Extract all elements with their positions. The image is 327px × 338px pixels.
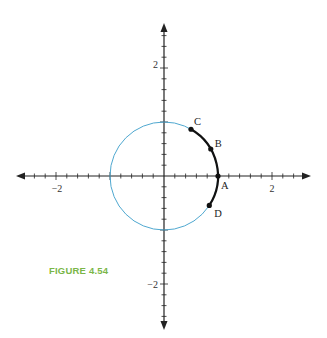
- y-tick-label-neg2: −2: [147, 279, 158, 290]
- point-c: [188, 127, 193, 132]
- point-label-c: C: [194, 116, 201, 127]
- y-tick-label-2: 2: [153, 59, 158, 70]
- point-b: [208, 146, 213, 151]
- point-label-b: B: [215, 138, 222, 149]
- point-label-d: D: [214, 208, 222, 219]
- x-axis-right-arrow-icon: [302, 173, 311, 180]
- y-axis-up-arrow-icon: [161, 23, 168, 32]
- point-d: [207, 203, 212, 208]
- x-tick-label-2: 2: [270, 183, 275, 194]
- figure-caption: FIGURE 4.54: [49, 265, 108, 276]
- y-axis-down-arrow-icon: [161, 321, 168, 330]
- x-tick-label-neg2: −2: [52, 183, 63, 194]
- point-a: [215, 173, 220, 178]
- unit-circle-diagram: ABCD −2 2 2 −2: [0, 0, 327, 338]
- x-axis-left-arrow-icon: [16, 173, 25, 180]
- point-label-a: A: [221, 180, 229, 191]
